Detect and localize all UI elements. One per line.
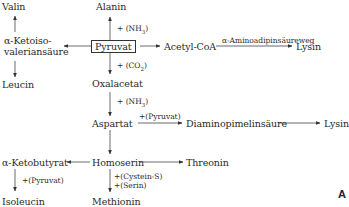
- label-nh3-aspartat: + (NH3): [117, 97, 148, 110]
- label-co2: + (CO2): [117, 61, 147, 74]
- node-alanin: Alanin: [96, 1, 126, 12]
- label-pyruvat-isoleucin: +(Pyruvat): [22, 176, 64, 185]
- node-diaminopimelinsaeure: Diaminopimelinsäure: [186, 118, 287, 129]
- node-acetyl-coa: Acetyl-CoA: [164, 41, 216, 52]
- node-pyruvat: Pyruvat: [91, 40, 136, 53]
- node-lysin-mid: Lysin: [324, 118, 349, 129]
- node-methionin: Methionin: [92, 196, 140, 207]
- node-ketobutyrat: α-Ketobutyrat: [2, 157, 68, 168]
- node-ketoisovaleriansaeure-line2: valeriansäure: [4, 46, 69, 57]
- node-aspartat: Aspartat: [92, 118, 133, 129]
- label-cystein-s: +(Cystein-S): [114, 172, 162, 181]
- label-serin: +(Serin): [114, 181, 147, 190]
- node-isoleucin: Isoleucin: [2, 196, 45, 207]
- node-threonin: Threonin: [186, 157, 229, 168]
- label-nh3-alanin: + (NH3): [117, 24, 148, 37]
- node-ketoisovaleriansaeure-line1: α-Ketoiso-: [4, 35, 51, 46]
- node-valin: Valin: [2, 1, 25, 12]
- label-pyruvat-dap: +(Pyruvat): [139, 112, 181, 121]
- panel-label: A: [338, 188, 346, 200]
- node-homoserin: Homoserin: [92, 157, 144, 168]
- node-oxalacetat: Oxalacetat: [92, 78, 143, 89]
- node-lysin-top: Lysin: [296, 41, 321, 52]
- node-leucin: Leucin: [2, 79, 34, 90]
